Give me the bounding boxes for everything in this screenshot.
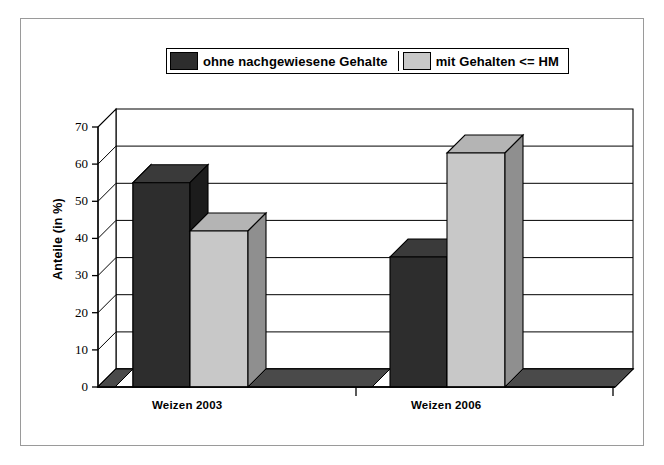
y-tick-marks <box>92 127 98 387</box>
y-tick-label-40: 40 <box>62 230 88 246</box>
y-tick-label-60: 60 <box>62 156 88 172</box>
bar-series1-cat1 <box>447 135 523 387</box>
floor-slab-1 <box>248 369 390 387</box>
y-tick-label-20: 20 <box>62 305 88 321</box>
y-tick-label-10: 10 <box>62 342 88 358</box>
y-tick-label-30: 30 <box>62 267 88 283</box>
x-tick-label-weizen-2006: Weizen 2006 <box>411 399 481 411</box>
plot-canvas <box>0 0 664 465</box>
y-tick-label-50: 50 <box>62 193 88 209</box>
chart-figure: ohne nachgewiesene Gehalte mit Gehalten … <box>0 0 664 465</box>
floor-slab-2 <box>505 369 633 387</box>
plot-area: Anteile (in %) 70 60 50 40 30 20 10 0 We… <box>0 0 664 465</box>
y-tick-label-0: 0 <box>62 379 88 395</box>
x-tick-label-weizen-2003: Weizen 2003 <box>152 399 222 411</box>
bar-series1-cat0 <box>190 213 266 387</box>
y-tick-label-70: 70 <box>62 119 88 135</box>
